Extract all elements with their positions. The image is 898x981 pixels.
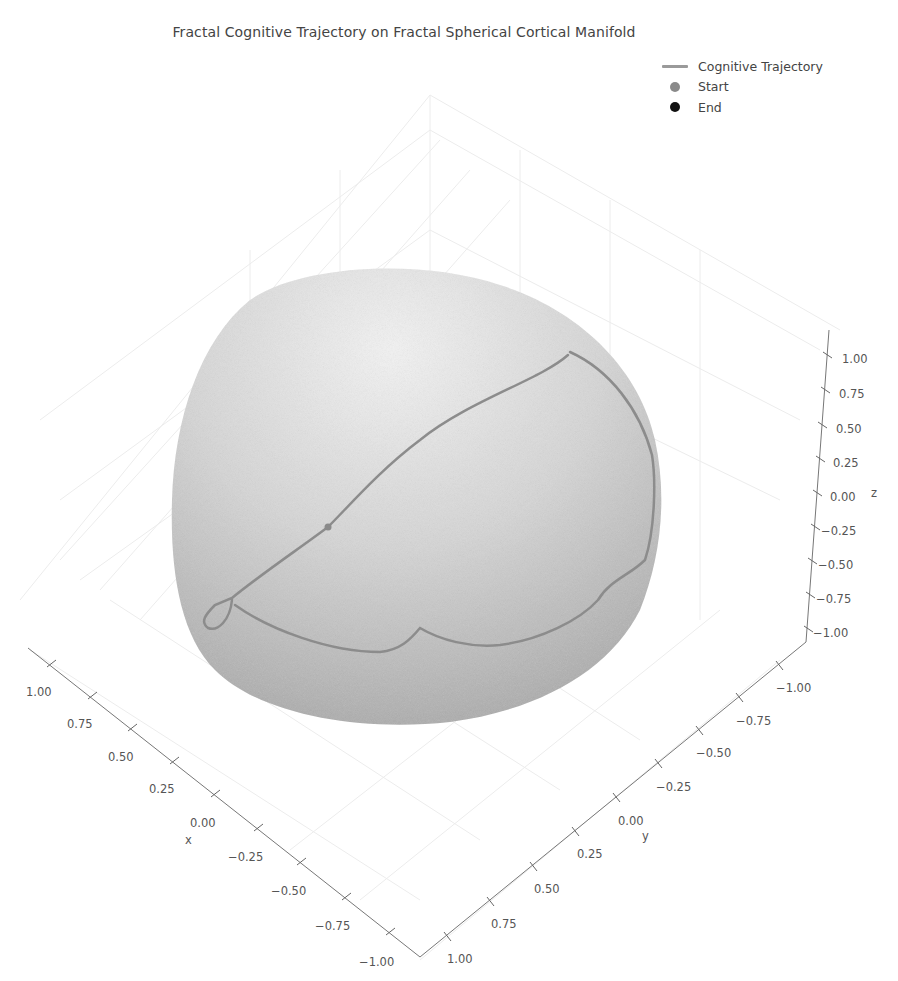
y-tick-label: 0.25 — [577, 847, 603, 861]
z-tick-label: −0.50 — [818, 558, 853, 572]
y-tick-label: 0.00 — [618, 814, 644, 828]
y-tick-label: −0.75 — [736, 714, 771, 728]
x-tick-label: −0.50 — [271, 884, 306, 898]
y-tick-label: 0.75 — [491, 917, 517, 931]
y-tick-label: 1.00 — [447, 952, 473, 966]
x-tick-label: −1.00 — [359, 955, 394, 969]
z-tick-label: −0.75 — [816, 592, 851, 606]
y-tick-label: −0.50 — [696, 746, 731, 760]
z-tick-label: 0.25 — [833, 456, 859, 470]
x-tick-label: 0.75 — [67, 717, 93, 731]
x-axis-label: x — [185, 833, 192, 847]
z-tick-label: 1.00 — [842, 352, 868, 366]
z-tick-label: −1.00 — [813, 626, 848, 640]
z-axis-label: z — [871, 486, 877, 500]
plot-area: 1.00 0.75 0.50 0.25 0.00 x −0.25 −0.50 −… — [0, 0, 898, 981]
z-tick-label: 0.50 — [836, 422, 862, 436]
y-tick-label: −0.25 — [656, 780, 691, 794]
start-marker — [325, 524, 332, 531]
x-tick-label: 0.25 — [149, 782, 175, 796]
z-tick-label: 0.75 — [839, 387, 865, 401]
y-tick-label: −1.00 — [776, 681, 811, 695]
z-axis: 1.00 0.75 0.50 0.25 0.00 z −0.25 −0.50 −… — [804, 330, 877, 642]
z-tick-label: 0.00 — [830, 490, 856, 504]
y-axis-label: y — [642, 829, 649, 843]
x-tick-label: 0.00 — [190, 816, 216, 830]
manifold-surface — [172, 269, 662, 725]
x-tick-label: −0.75 — [315, 919, 350, 933]
x-tick-label: 1.00 — [26, 685, 52, 699]
x-tick-label: −0.25 — [228, 850, 263, 864]
x-tick-label: 0.50 — [108, 750, 134, 764]
z-tick-label: −0.25 — [821, 524, 856, 538]
y-tick-label: 0.50 — [534, 882, 560, 896]
